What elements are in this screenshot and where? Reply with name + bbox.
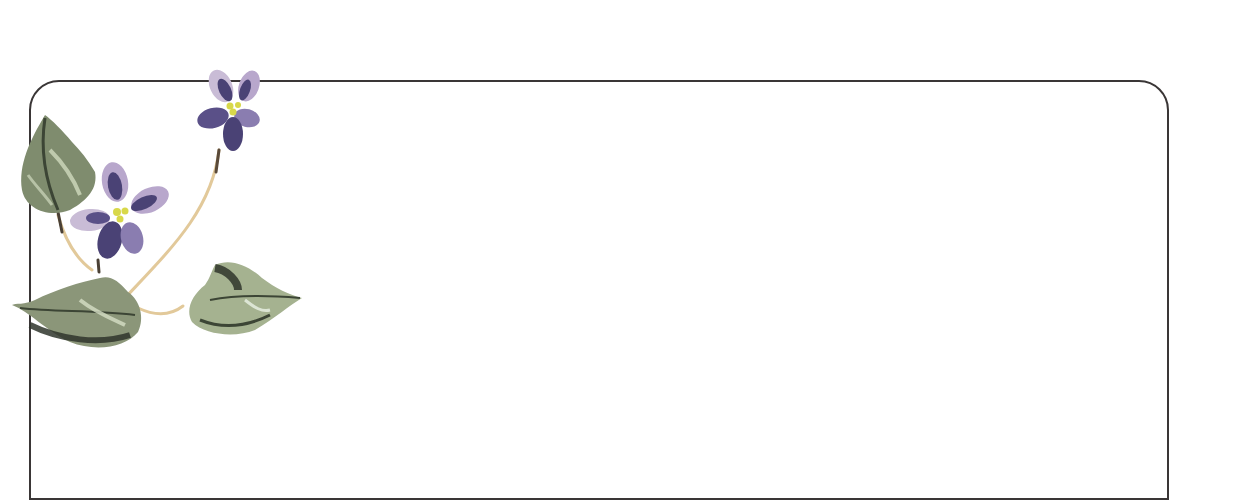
leaf-lower-right-icon: [189, 262, 302, 334]
violet-flower-top-icon: [195, 66, 264, 151]
violet-illustration: [0, 50, 320, 370]
leaf-lower-left-icon: [12, 277, 141, 347]
leaf-upper-left-icon: [21, 115, 95, 213]
